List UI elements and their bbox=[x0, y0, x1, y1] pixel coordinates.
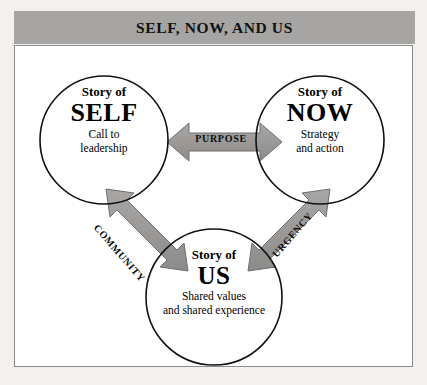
page-title: SELF, NOW, AND US bbox=[136, 19, 293, 37]
figure-self-now-us: SELF, NOW, AND US bbox=[0, 0, 427, 385]
figure-title-band: SELF, NOW, AND US bbox=[14, 11, 415, 44]
node-self-desc-1: Call to bbox=[40, 128, 168, 142]
node-now-headword: NOW bbox=[256, 100, 384, 126]
node-self-kicker: Story of bbox=[40, 85, 168, 99]
node-self-desc-2: leadership bbox=[40, 142, 168, 156]
node-self-headword: SELF bbox=[40, 100, 168, 126]
arrow-label-purpose: PURPOSE bbox=[188, 133, 254, 144]
node-label-us: Story of US Shared values and shared exp… bbox=[132, 248, 296, 317]
node-now-desc-1: Strategy bbox=[256, 128, 384, 142]
node-us-desc-1: Shared values bbox=[132, 290, 296, 304]
node-us-headword: US bbox=[132, 263, 296, 288]
node-label-self: Story of SELF Call to leadership bbox=[40, 85, 168, 155]
node-us-desc-2: and shared experience bbox=[132, 304, 296, 318]
node-now-desc-2: and action bbox=[256, 142, 384, 156]
node-now-kicker: Story of bbox=[256, 85, 384, 99]
node-label-now: Story of NOW Strategy and action bbox=[256, 85, 384, 155]
